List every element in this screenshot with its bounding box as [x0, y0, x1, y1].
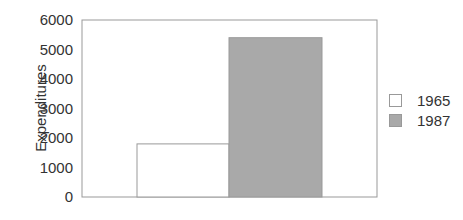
bar-1987 — [229, 38, 322, 197]
bar-1965 — [137, 144, 229, 197]
bars — [137, 38, 322, 197]
legend: 1965 1987 — [389, 90, 450, 130]
y-tick-label: 1000 — [40, 159, 73, 176]
y-tick-label: 0 — [65, 188, 73, 205]
y-axis-label: Expenditures — [32, 64, 49, 152]
y-tick-label: 5000 — [40, 41, 73, 58]
legend-label: 1965 — [417, 92, 450, 109]
legend-item-1965: 1965 — [389, 90, 450, 110]
legend-item-1987: 1987 — [389, 110, 450, 130]
y-tick-label: 6000 — [40, 11, 73, 28]
legend-label: 1987 — [417, 112, 450, 129]
legend-swatch-1987 — [389, 114, 402, 127]
legend-swatch-1965 — [389, 94, 402, 107]
